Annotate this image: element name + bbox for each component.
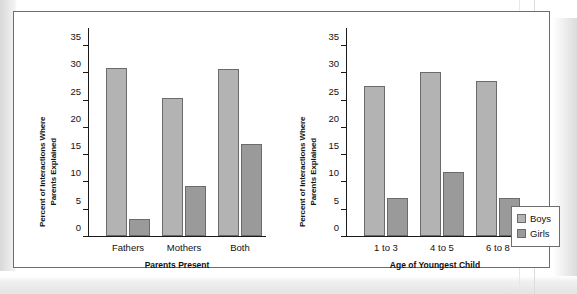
y-axis-title-line2: Parents Explained — [309, 117, 320, 227]
legend-item-label: Boys — [530, 213, 551, 224]
y-axis-tick-label: 20 — [70, 112, 81, 123]
x-axis-title: Age of Youngest Child — [390, 260, 480, 270]
y-axis-tick — [83, 154, 88, 155]
y-axis-tick — [341, 209, 346, 210]
y-axis-tick — [83, 45, 88, 46]
y-axis-title: Percent of Interactions Where Parents Ex… — [298, 117, 319, 227]
y-axis-tick — [341, 72, 346, 73]
bar-girls-1-to-3 — [387, 198, 408, 236]
bar-boys-both — [218, 69, 239, 236]
plot-area: 051015202530351 to 34 to 56 to 8 — [346, 28, 524, 237]
y-axis-title-line1: Percent of Interactions Where — [298, 117, 309, 227]
y-axis-tick-label: 10 — [328, 167, 339, 178]
x-axis-category-label: Mothers — [167, 242, 201, 253]
bar-boys-1-to-3 — [364, 86, 385, 236]
y-axis-tick — [83, 181, 88, 182]
y-axis-tick-label: 25 — [70, 85, 81, 96]
x-axis-category-label: Fathers — [112, 242, 144, 253]
x-axis-line — [88, 236, 266, 237]
y-axis-tick — [83, 72, 88, 73]
y-axis-line — [346, 28, 347, 237]
y-axis-line — [88, 28, 89, 237]
y-axis-tick-label: 0 — [334, 222, 339, 233]
y-axis-tick-label: 35 — [328, 31, 339, 42]
y-axis-tick — [83, 100, 88, 101]
y-axis-tick — [83, 209, 88, 210]
y-axis-tick — [341, 181, 346, 182]
y-axis-tick-label: 0 — [76, 222, 81, 233]
legend-swatch-icon — [517, 214, 526, 223]
y-axis-title-line2: Parents Explained — [49, 117, 60, 227]
bar-boys-4-to-5 — [420, 72, 441, 236]
x-axis-category-label: 6 to 8 — [486, 242, 510, 253]
scanned-page: Percent of Interactions Where Parents Ex… — [0, 0, 577, 294]
legend-swatch-icon — [517, 229, 526, 238]
y-axis-title-line1: Percent of Interactions Where — [38, 117, 49, 227]
bar-boys-6-to-8 — [476, 81, 497, 236]
y-axis-tick — [341, 127, 346, 128]
chart-panel-age-of-youngest-child: Percent of Interactions Where Parents Ex… — [286, 12, 541, 267]
figure-frame: Percent of Interactions Where Parents Ex… — [13, 11, 550, 268]
y-axis-tick — [83, 236, 88, 237]
chart-panel-parents-present: Percent of Interactions Where Parents Ex… — [24, 12, 284, 267]
x-axis-category-label: 1 to 3 — [374, 242, 398, 253]
y-axis-tick — [341, 45, 346, 46]
x-axis-category-label: Both — [230, 242, 250, 253]
legend-item-boys: Boys — [517, 211, 559, 226]
bar-girls-4-to-5 — [443, 172, 464, 236]
legend-item-label: Girls — [530, 228, 550, 239]
y-axis-tick — [83, 127, 88, 128]
y-axis-title: Percent of Interactions Where Parents Ex… — [38, 117, 59, 227]
legend: BoysGirls — [511, 206, 560, 247]
scan-edge-shadow-bottom — [0, 276, 577, 294]
x-axis-title: Parents Present — [145, 260, 210, 270]
y-axis-tick-label: 5 — [76, 194, 81, 205]
y-axis-tick-label: 30 — [328, 58, 339, 69]
y-axis-tick-label: 15 — [328, 140, 339, 151]
plot-area: 05101520253035FathersMothersBoth — [88, 28, 266, 237]
y-axis-tick — [341, 100, 346, 101]
x-axis-line — [346, 236, 524, 237]
y-axis-tick-label: 35 — [70, 31, 81, 42]
bar-girls-both — [241, 144, 262, 236]
y-axis-tick — [341, 154, 346, 155]
y-axis-tick — [341, 236, 346, 237]
x-axis-category-label: 4 to 5 — [430, 242, 454, 253]
bar-boys-mothers — [162, 98, 183, 236]
y-axis-tick-label: 15 — [70, 140, 81, 151]
bar-boys-fathers — [106, 68, 127, 236]
y-axis-tick-label: 25 — [328, 85, 339, 96]
bar-girls-mothers — [185, 186, 206, 236]
y-axis-tick-label: 20 — [328, 112, 339, 123]
bar-girls-fathers — [129, 219, 150, 236]
y-axis-tick-label: 5 — [334, 194, 339, 205]
y-axis-tick-label: 30 — [70, 58, 81, 69]
legend-item-girls: Girls — [517, 226, 559, 241]
y-axis-tick-label: 10 — [70, 167, 81, 178]
